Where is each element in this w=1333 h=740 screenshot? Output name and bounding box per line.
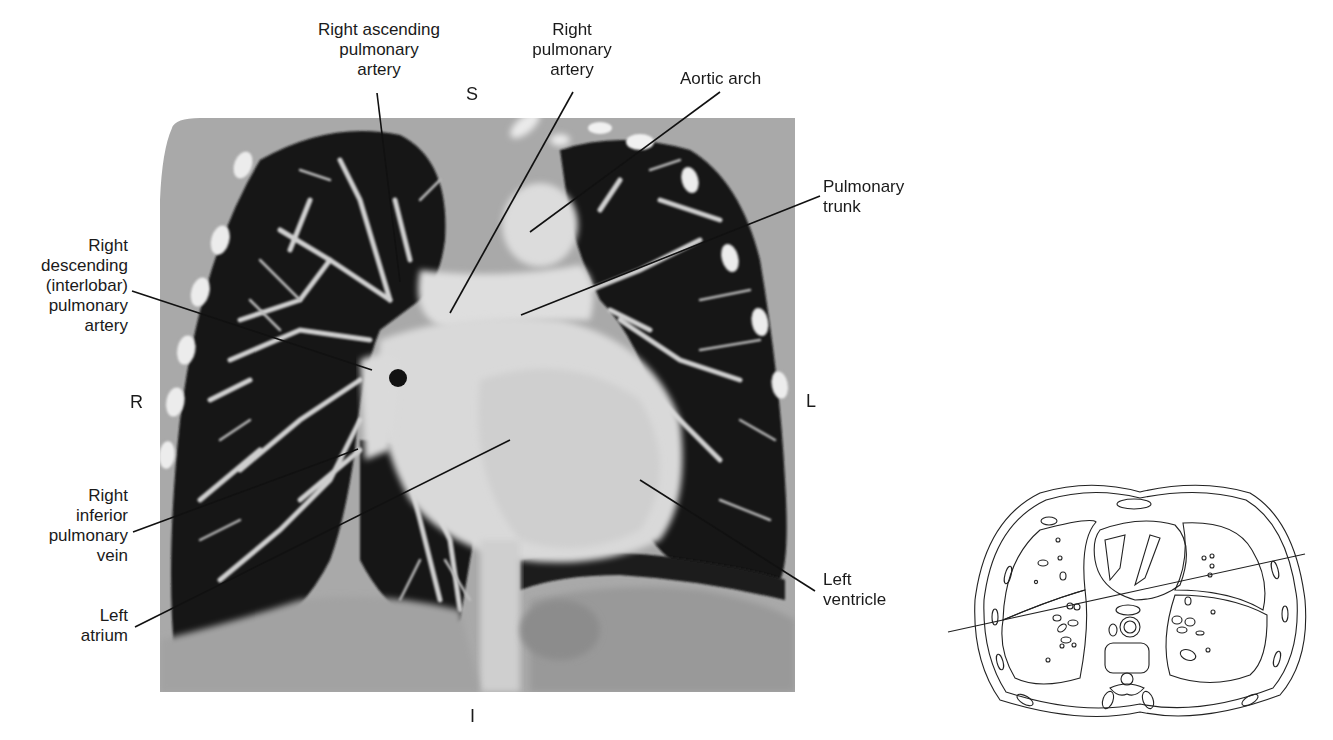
axial-reference-diagram: [975, 485, 1306, 716]
orientation-inferior: I: [470, 706, 475, 727]
label-aortic-arch: Aortic arch: [680, 69, 761, 89]
orientation-right: R: [130, 392, 143, 413]
label-right-pulmonary-artery: Right pulmonary artery: [522, 20, 622, 80]
label-right-inferior-pulmonary-vein: Right inferior pulmonary vein: [20, 486, 128, 566]
label-left-ventricle: Left ventricle: [823, 570, 886, 610]
anatomy-figure: S I R L Right ascending pulmonary artery…: [0, 0, 1333, 740]
ct-coronal-image: [0, 0, 1333, 740]
label-left-atrium: Left atrium: [20, 606, 128, 646]
label-right-descending-pulmonary-artery: Right descending (interlobar) pulmonary …: [20, 236, 128, 336]
label-right-ascending-pulmonary-artery: Right ascending pulmonary artery: [298, 20, 460, 80]
orientation-superior: S: [466, 84, 478, 105]
coronal-plane-line: [948, 554, 1305, 632]
orientation-left: L: [806, 391, 816, 412]
label-pulmonary-trunk: Pulmonary trunk: [823, 177, 904, 217]
